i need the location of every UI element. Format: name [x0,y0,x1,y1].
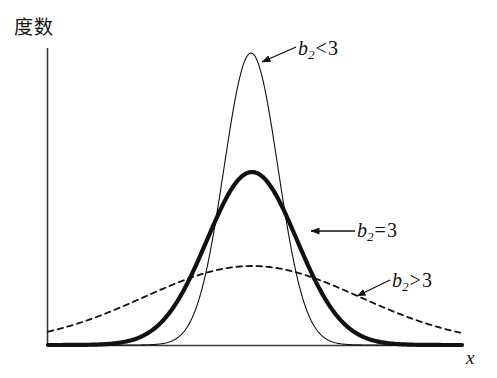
arrow-to-b2-less-than-3 [262,47,296,62]
x-axis-label: x [466,348,474,367]
annotation-value: 3 [387,219,397,241]
annotation-relation: < [315,37,328,59]
annotation-relation: > [409,269,422,291]
annotation-relation: = [374,219,387,241]
annotation-subscript: 2 [367,229,374,244]
annotation-b2-greater-than-3: b2>3 [392,270,432,290]
annotation-subscript: 2 [308,47,315,62]
annotation-b2-less-than-3: b2<3 [298,38,338,58]
arrow-to-b2-greater-than-3 [357,280,390,296]
annotation-b2-equals-3: b2=3 [357,220,397,240]
annotation-symbol: b [392,269,402,291]
annotation-value: 3 [422,269,432,291]
kurtosis-figure: 度数 x b2<3 b2=3 b2>3 [0,0,497,378]
curve-b2-less-than-3 [48,53,462,345]
y-axis-label: 度数 [14,18,53,37]
plot-canvas [0,0,497,378]
annotation-value: 3 [328,37,338,59]
annotation-symbol: b [298,37,308,59]
annotation-arrows [262,47,390,296]
annotation-symbol: b [357,219,367,241]
curve-b2-equals-3 [48,172,462,345]
annotation-subscript: 2 [402,279,409,294]
axes [47,48,462,346]
